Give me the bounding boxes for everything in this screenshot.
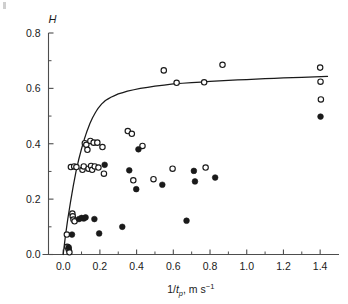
data-point-open [74,164,79,169]
data-point-filled [159,182,165,188]
data-point-open [170,166,175,171]
y-tick-label: 0.0 [26,248,41,260]
x-tick-label: 0.8 [203,260,218,272]
x-tick-label: 1.2 [276,260,291,272]
y-tick-label: 0.8 [26,27,41,39]
x-tick-label: 1.0 [239,260,254,272]
data-point-filled [318,114,324,120]
x-axis-title: 1/tp, m s−1 [167,282,214,298]
data-point-open [100,144,105,149]
data-point-filled [212,175,218,181]
data-point-open [174,80,179,85]
data-point-open [318,79,323,84]
data-point-filled [126,167,132,173]
data-point-open [85,147,90,152]
corner-artifact [3,2,6,9]
data-point-open [317,65,322,70]
data-point-filled [192,179,198,185]
data-point-open [96,165,101,170]
x-tick-label: 0.2 [93,260,108,272]
x-tick-label: 1.4 [313,260,328,272]
data-point-open [220,62,225,67]
x-tick-label: 0.0 [56,260,71,272]
data-point-open [151,176,156,181]
data-point-filled [136,146,142,152]
x-tick-label: 0.6 [166,260,181,272]
data-point-filled [83,215,89,221]
data-point-open [95,140,100,145]
data-point-open [161,68,166,73]
data-points-layer [64,62,323,255]
data-point-open [131,178,136,183]
y-tick-label: 0.4 [26,138,41,150]
data-point-open [67,250,72,255]
data-point-filled [69,232,75,238]
data-point-open [64,232,69,237]
data-point-open [203,165,208,170]
scatter-plot: 0.00.20.40.60.80.00.20.40.60.81.01.21.4H… [0,0,348,304]
x-tick-label: 0.4 [129,260,144,272]
y-axis-title: H [49,13,57,25]
data-point-filled [102,162,108,168]
data-point-filled [92,216,98,222]
data-point-filled [184,218,190,224]
figure-panel: 0.00.20.40.60.80.00.20.40.60.81.01.21.4H… [0,0,348,304]
data-point-filled [96,231,102,237]
data-point-open [129,131,134,136]
data-point-filled [191,168,197,174]
data-point-filled [66,244,72,250]
y-tick-label: 0.6 [26,82,41,94]
data-point-filled [119,224,125,230]
data-point-open [201,80,206,85]
y-tick-label: 0.2 [26,193,41,205]
data-point-filled [133,186,139,192]
data-point-open [318,97,323,102]
data-point-open [101,171,106,176]
